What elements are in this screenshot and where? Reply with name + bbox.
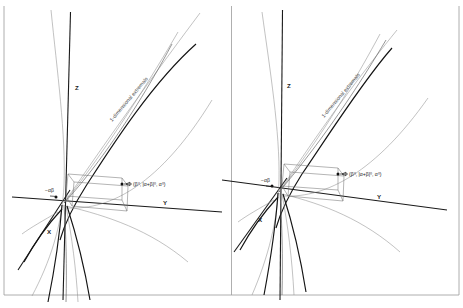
right-panel-origin-marker bbox=[271, 185, 274, 188]
right-panel-point-label: (β⁰, |α+β|⁰, α⁰) bbox=[349, 171, 382, 177]
dual-panel-diagram: Z Y X −αβ (β⁰, |α+β|⁰, α⁰) 1-dimensional… bbox=[0, 0, 463, 308]
left-panel-point-marker bbox=[121, 183, 124, 186]
left-panel-point-label: (β⁰, |α+β|⁰, α⁰) bbox=[133, 181, 166, 187]
right-panel-z-label: Z bbox=[287, 82, 291, 89]
left-panel-origin-leader bbox=[50, 196, 57, 197]
left-panel-origin-marker bbox=[55, 196, 58, 199]
left-panel-z-label: Z bbox=[75, 84, 79, 91]
right-panel-origin-leader bbox=[266, 186, 273, 187]
right-panel-point-marker bbox=[337, 173, 340, 176]
figure-root: Z Y X −αβ (β⁰, |α+β|⁰, α⁰) 1-dimensional… bbox=[0, 0, 463, 308]
right-panel-origin-label: −αβ bbox=[261, 177, 270, 183]
left-panel-origin-label: −αβ bbox=[45, 187, 54, 193]
